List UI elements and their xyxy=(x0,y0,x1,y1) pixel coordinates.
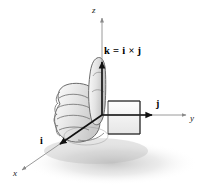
i-vector-arrow xyxy=(60,115,102,144)
axis-label-z: z xyxy=(92,6,96,15)
coordinate-axes xyxy=(0,0,207,191)
vector-label-j: j xyxy=(156,99,159,109)
axis-label-y: y xyxy=(190,114,194,123)
vector-label-i: i xyxy=(40,136,43,146)
axis-label-x: x xyxy=(13,169,17,178)
right-hand-rule-figure: z y x i j k = i × j xyxy=(0,0,207,191)
vector-label-k-equation: k = i × j xyxy=(104,46,141,57)
